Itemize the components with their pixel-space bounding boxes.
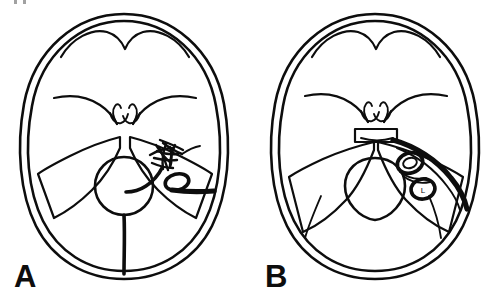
panel-a-drawing	[0, 0, 250, 295]
panel-b-drawing: L	[251, 0, 501, 295]
posterior-tentorial-edge-left	[305, 196, 321, 238]
panel-a-label: A	[14, 261, 36, 292]
draining-vein	[172, 190, 214, 192]
tentorium-left	[289, 142, 374, 232]
sphenoid-wing-right	[133, 96, 196, 124]
panel-b: L B	[251, 0, 501, 295]
sphenoid-wing-left	[305, 94, 368, 122]
nidus-accent-stroke	[182, 146, 200, 154]
panel-b-label: B	[265, 261, 287, 292]
vessel-inferior-tag: L	[421, 186, 426, 195]
posterior-tentorial-edge-right	[429, 196, 441, 238]
tentorium-left	[38, 137, 120, 218]
sphenoid-wing-right	[384, 94, 447, 122]
figure-root: A	[0, 0, 501, 295]
panel-a: A	[0, 0, 250, 295]
sella-inner-line	[361, 138, 393, 140]
nidus-tangle	[150, 140, 183, 170]
sphenoid-wing-left	[54, 96, 117, 124]
